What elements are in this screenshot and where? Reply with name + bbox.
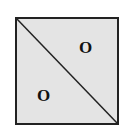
- label-lower-left: O: [37, 86, 50, 105]
- label-upper-right: O: [79, 38, 92, 57]
- square-diagram: O O: [0, 0, 121, 132]
